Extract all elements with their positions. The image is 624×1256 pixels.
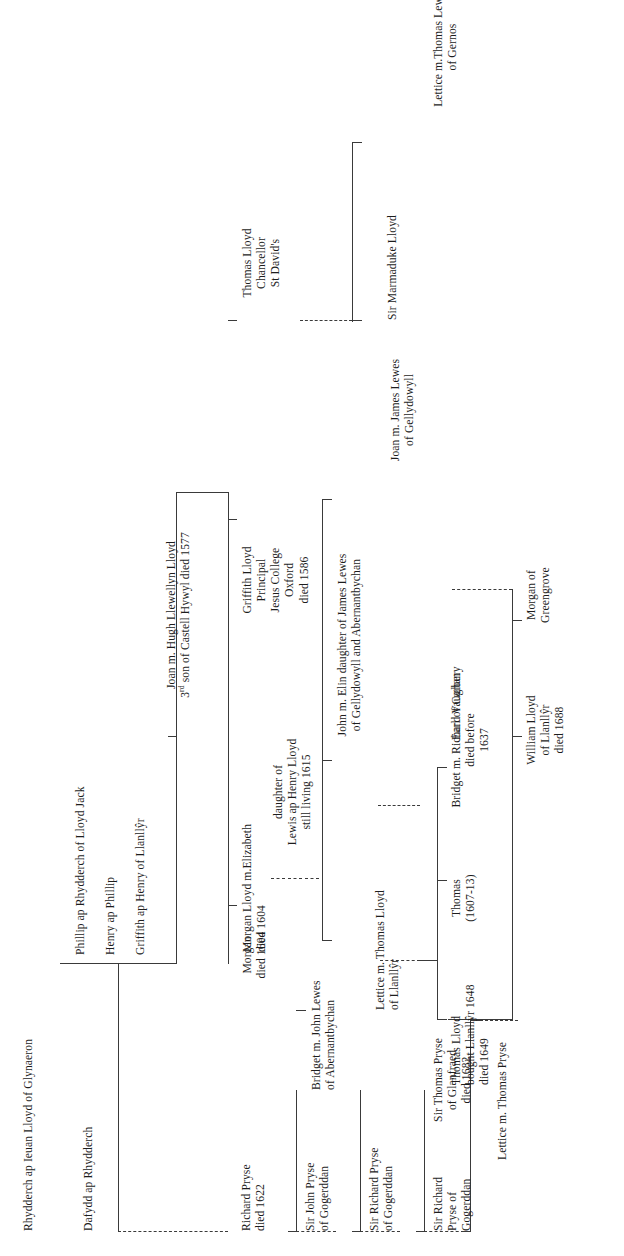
node-henry: Henry ap Phillip (104, 795, 118, 955)
rule-john-pryse-spine (360, 1090, 361, 1232)
rule-tick-griffith-lloyd (228, 519, 237, 520)
rule-dafydd-dashed (118, 1231, 228, 1232)
node-griffith-lloyd: Griffith Lloyd Principal Jesus College O… (241, 500, 312, 660)
rule-greengrove-dashed (452, 589, 512, 590)
node-griffith-lloyd-line1: Griffith Lloyd (241, 500, 255, 660)
rule-chancellor-children-spine (352, 142, 353, 322)
rule-tick-william-lloyd (512, 736, 522, 737)
node-william-lloyd-line3: died 1688 (553, 660, 567, 800)
node-bridget-john-lewes: Bridget m. John Lewes of Abernantbychan (310, 900, 338, 1090)
node-lettice-pryse-line1: Lettice m. Thomas Pryse (496, 980, 510, 1160)
node-dafydd: Dafydd ap Rhydderch (82, 1061, 96, 1231)
node-griffith-lloyd-line2: Principal (255, 500, 269, 660)
rule-tick-bridget-vaughan (437, 767, 447, 768)
node-richard-pryse-line1: Richard Pryse (240, 1111, 254, 1231)
rule-tick-bridget-john (296, 1010, 306, 1011)
node-morgan-1604-line2: died 1604 (255, 910, 269, 1000)
node-richard-pryse-gog-line2: of Gogerddan (382, 1081, 396, 1231)
node-thomas-pryse: Sir Thomas Pryse of Glanfraed died 1682 (432, 1010, 474, 1150)
node-elizabeth: daughter of Lewis ap Henry Lloyd still l… (272, 712, 314, 872)
rule-tick-morgan-lloyd (228, 905, 237, 906)
pedigree-chart: Rhydderch ap Ieuan Lloyd of Glynaeron Da… (0, 0, 624, 1256)
node-bridget-john-line2: of Abernantbychan (324, 900, 338, 1090)
rule-lettice-children-top (420, 960, 438, 961)
node-joan-hugh-line1: Joan m. Hugh Llewellyn Lloyd (165, 500, 179, 730)
rule-chancellor-dashed (300, 320, 352, 321)
node-griffith-llanllyr-line1: Griffith ap Henry of Llanllŷr (134, 755, 148, 955)
node-thomas-chancellor-line1: Thomas Lloyd (241, 203, 255, 323)
node-marmaduke-line1: Sir Marmaduke Lloyd (386, 160, 400, 320)
node-griffith-lloyd-line5: died 1586 (298, 500, 312, 660)
rule-morgan-marriage-3 (305, 878, 319, 879)
node-joan-james-lewes: Joan m. James Lewes of Gellydowyll (389, 320, 417, 500)
node-john-pryse-line1: Sir John Pryse (304, 1091, 318, 1231)
node-morgan-greengrove: Morgan of Greengrove (525, 535, 553, 655)
rule-tick-john-pryse (352, 1231, 361, 1232)
node-bridget-john-line1: Bridget m. John Lewes (310, 900, 324, 1090)
node-lettice-gernos: Lettice m.Thomas Lewes of Gernos (432, 0, 460, 142)
node-william-lloyd-line2: of Llanllŷr (539, 660, 553, 800)
node-earl-carbery-line1: Earl of Carbery (450, 600, 464, 740)
node-john-elin: John m. Elin daughter of James Lewes of … (336, 510, 364, 780)
node-joan-hugh-line2-rest: son of Castell Hywyl died 1577 (179, 532, 192, 685)
node-joan-hugh-ordinal-num: 3 (179, 692, 192, 698)
node-morgan-1604-line1: Morgan (241, 910, 255, 1000)
node-lettice-thomas-line1: Lettice m. Thomas Lloyd (374, 820, 388, 1010)
node-bridget-vaughan-line2: died before (464, 650, 478, 830)
node-thomas-pryse-line3: died 1682 (460, 1010, 474, 1150)
node-dafydd-line1: Dafydd ap Rhydderch (82, 1061, 96, 1231)
rule-tick-richard-gog (416, 1231, 425, 1232)
node-elizabeth-line1: daughter of (272, 712, 286, 872)
node-morgan-greengrove-line1: Morgan of (525, 535, 539, 655)
node-phillip-line1: Phillip ap Rhydderch of Lloyd Jack (74, 725, 88, 955)
rule-lettice-children-spine (437, 767, 438, 1020)
rule-morgan-children-spine (322, 499, 323, 879)
node-morgan-died-1604: Morgan died 1604 (241, 910, 269, 1000)
node-william-lloyd-line1: William Lloyd (525, 660, 539, 800)
node-lettice-gernos-line2: of Gernos (446, 0, 460, 142)
rule-tick-thomas-1607 (437, 880, 447, 881)
node-lettice-thomas-lloyd: Lettice m. Thomas Lloyd of Llanllŷr (374, 820, 402, 1010)
rule-tick-marmaduke (352, 320, 362, 321)
node-thomas-lloyd-chancellor: Thomas Lloyd Chancellor St David's (241, 203, 283, 323)
rule-richard-pryse-dashed (296, 1231, 336, 1232)
node-bridget-vaughan-line3: 1637 (478, 650, 492, 830)
node-thomas-pryse-line2: of Glanfraed (446, 1010, 460, 1150)
node-richard-pryse-gog-line1: Sir Richard Pryse (368, 1081, 382, 1231)
rule-root-spine (118, 963, 119, 1231)
node-joan-james-line2: of Gellydowyll (403, 320, 417, 500)
node-thomas-chancellor-line3: St David's (269, 203, 283, 323)
node-john-pryse-line2: of Gogerddan (318, 1091, 332, 1231)
rule-tick-lettice-gernos (352, 142, 362, 143)
node-joan-hugh: Joan m. Hugh Llewellyn Lloyd 3rd son of … (165, 500, 193, 730)
node-rhydderch: Rhydderch ap Ieuan Lloyd of Glynaeron (22, 971, 36, 1231)
node-earl-carbery: Earl of Carbery (450, 600, 464, 740)
rule-tick-sir-richard-pryse-of (462, 1231, 471, 1232)
node-elizabeth-line3: still living 1615 (300, 712, 314, 872)
node-morgan-greengrove-line2: Greengrove (539, 535, 553, 655)
rule-tick-morgan-greengrove (512, 620, 522, 621)
node-griffith-lloyd-line4: Oxford (283, 500, 297, 660)
node-joan-hugh-line2: 3rd son of Castell Hywyl died 1577 (179, 500, 193, 730)
node-richard-pryse-line2: died 1622 (254, 1111, 268, 1231)
rule-tick-joan (168, 736, 177, 737)
node-joan-hugh-ordinal-sup: rd (177, 685, 186, 692)
node-joan-james-line1: Joan m. James Lewes (389, 320, 403, 500)
rule-richard-pryse-gog-spine (424, 1090, 425, 1232)
rule-tick-john-elin (322, 760, 332, 761)
rule-tick-thomas-chancellor (228, 320, 237, 321)
rule-john-elin-dashed (378, 805, 420, 806)
node-john-pryse: Sir John Pryse of Gogerddan (304, 1091, 332, 1231)
node-thomas-bought-line3: died 1649 (478, 885, 492, 1085)
node-richard-pryse-gogerddan: Sir Richard Pryse of Gogerddan (368, 1081, 396, 1231)
rule-joan-children-spine (228, 492, 229, 964)
node-rhydderch-line1: Rhydderch ap Ieuan Lloyd of Glynaeron (22, 971, 36, 1231)
node-phillip: Phillip ap Rhydderch of Lloyd Jack (74, 725, 88, 955)
node-henry-line1: Henry ap Phillip (104, 795, 118, 955)
node-thomas-pryse-line1: Sir Thomas Pryse (432, 1010, 446, 1150)
rule-richard-pryse-spine (296, 1090, 297, 1232)
node-griffith-llanllyr: Griffith ap Henry of Llanllŷr (134, 755, 148, 955)
rule-phillip-line (60, 963, 176, 964)
node-john-elin-line1: John m. Elin daughter of James Lewes (336, 510, 350, 780)
rule-thomas-bought-children-spine (512, 589, 513, 1021)
